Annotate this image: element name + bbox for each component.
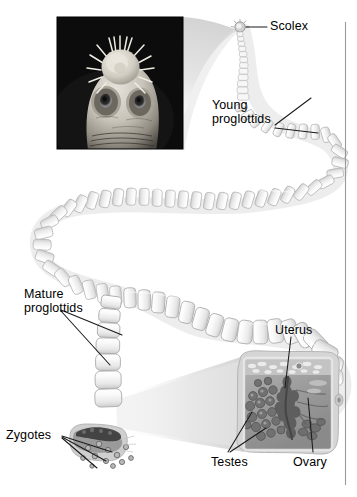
label-young-proglottids-line2: proglottids [212,112,271,126]
label-young-proglottids: Youngproglottids [212,98,271,126]
tapeworm-anatomy-figure: Scolex Youngproglottids Matureproglottid… [0,0,357,497]
diagram-artwork [0,0,357,497]
label-testes: Testes [211,456,248,470]
label-mature-proglottids-line1: Mature [24,287,64,301]
label-young-proglottids-line1: Young [212,98,248,112]
label-ovary: Ovary [293,456,327,470]
sucker-right [126,88,154,119]
proglottid-magnification-wedge [115,356,244,452]
label-zygotes: Zygotes [6,429,51,443]
scolex-sem-photo [50,17,183,170]
mature-proglottid-cross-section [237,351,343,454]
scolex-magnification-wedge [178,17,239,150]
label-scolex: Scolex [270,20,308,34]
sucker-left [91,86,121,118]
gravid-proglottids-chain [95,295,122,408]
label-mature-proglottids-line2: proglottids [24,301,83,315]
leader-young-1 [275,98,311,125]
label-uterus: Uterus [275,324,312,338]
label-mature-proglottids: Matureproglottids [24,287,83,315]
